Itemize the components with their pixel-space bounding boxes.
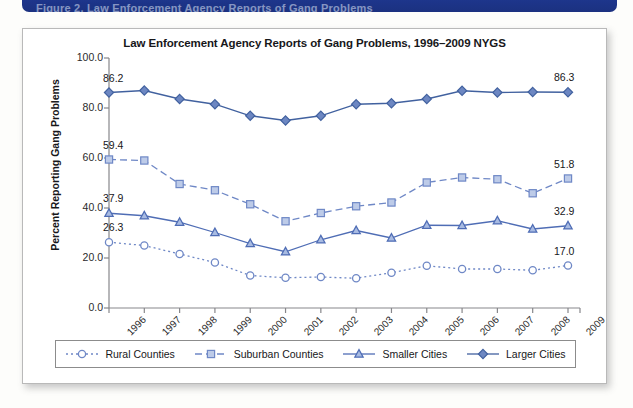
last-value-label: 86.3 xyxy=(554,71,574,83)
data-point-marker xyxy=(104,88,113,97)
first-value-label: 59.4 xyxy=(103,139,123,151)
data-point-marker xyxy=(387,99,396,108)
circle-dotted-key xyxy=(65,347,99,361)
last-value-label: 32.9 xyxy=(554,205,574,217)
data-point-marker xyxy=(246,111,255,120)
series-rural-counties xyxy=(105,239,571,282)
data-point-marker xyxy=(316,111,325,120)
data-point-marker xyxy=(478,349,487,358)
legend-label: Larger Cities xyxy=(506,348,566,360)
data-point-marker xyxy=(176,180,183,187)
data-point-marker xyxy=(458,174,465,181)
data-point-marker xyxy=(207,350,214,357)
last-value-label: 51.8 xyxy=(554,158,574,170)
data-point-marker xyxy=(564,221,572,229)
data-point-marker xyxy=(79,350,86,357)
data-point-marker xyxy=(353,203,360,210)
legend-item-suburban-counties[interactable]: Suburban Counties xyxy=(194,347,324,361)
data-point-marker xyxy=(564,262,571,269)
data-point-marker xyxy=(352,100,361,109)
data-point-marker xyxy=(105,239,112,246)
banner-title: Figure 2. Law Enforcement Agency Reports… xyxy=(22,0,617,12)
data-point-marker xyxy=(564,175,571,182)
data-point-marker xyxy=(282,274,289,281)
data-point-marker xyxy=(563,88,572,97)
data-point-marker xyxy=(317,273,324,280)
chart-legend: Rural CountiesSuburban CountiesSmaller C… xyxy=(55,340,576,368)
data-point-marker xyxy=(494,265,501,272)
data-point-marker xyxy=(494,176,501,183)
series-suburban-counties xyxy=(105,156,571,225)
data-point-marker xyxy=(281,116,290,125)
data-point-marker xyxy=(176,250,183,257)
data-point-marker xyxy=(210,100,219,109)
data-point-marker xyxy=(105,209,113,217)
data-point-marker xyxy=(529,190,536,197)
first-value-label: 26.3 xyxy=(103,221,123,233)
legend-label: Smaller Cities xyxy=(382,348,447,360)
data-point-marker xyxy=(457,86,466,95)
last-value-label: 17.0 xyxy=(554,245,574,257)
data-point-marker xyxy=(105,156,112,163)
data-point-marker xyxy=(282,218,289,225)
data-point-marker xyxy=(141,242,148,249)
data-point-marker xyxy=(422,94,431,103)
data-point-marker xyxy=(388,199,395,206)
data-point-marker xyxy=(423,179,430,186)
series-smaller-cities xyxy=(105,209,572,255)
page-banner: Figure 2. Law Enforcement Agency Reports… xyxy=(22,0,617,12)
data-point-marker xyxy=(353,275,360,282)
legend-item-smaller-cities[interactable]: Smaller Cities xyxy=(342,347,447,361)
legend-item-larger-cities[interactable]: Larger Cities xyxy=(466,347,566,361)
data-point-marker xyxy=(458,265,465,272)
plot-area: Percent Reporting Gang Problems 0.020.04… xyxy=(23,29,606,383)
data-point-marker xyxy=(247,272,254,279)
series-line xyxy=(109,160,568,222)
triangle-solid-key xyxy=(342,347,376,361)
data-point-marker xyxy=(317,209,324,216)
first-value-label: 37.9 xyxy=(103,192,123,204)
legend-label: Suburban Counties xyxy=(234,348,324,360)
data-point-marker xyxy=(388,269,395,276)
series-larger-cities xyxy=(104,86,572,125)
legend-item-rural-counties[interactable]: Rural Counties xyxy=(65,347,174,361)
square-dashed-key xyxy=(194,347,228,361)
data-point-marker xyxy=(211,187,218,194)
data-point-marker xyxy=(247,201,254,208)
data-point-marker xyxy=(140,86,149,95)
data-point-marker xyxy=(493,88,502,97)
data-point-marker xyxy=(423,262,430,269)
data-point-marker xyxy=(175,94,184,103)
data-point-marker xyxy=(211,259,218,266)
chart-card: Law Enforcement Agency Reports of Gang P… xyxy=(22,28,607,384)
data-point-marker xyxy=(141,157,148,164)
data-point-marker xyxy=(528,87,537,96)
data-point-marker xyxy=(352,226,360,234)
data-point-marker xyxy=(493,216,501,224)
legend-label: Rural Counties xyxy=(105,348,174,360)
data-point-marker xyxy=(529,267,536,274)
first-value-label: 86.2 xyxy=(103,72,123,84)
diamond-solid-key xyxy=(466,347,500,361)
